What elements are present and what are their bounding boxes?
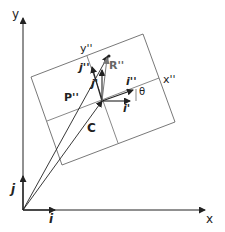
i-dd-vector (102, 90, 133, 101)
j-dd-label: j'' (79, 62, 90, 73)
j-prime-label: j' (91, 78, 98, 89)
diagram-graphics (0, 0, 225, 232)
C-label: C (87, 122, 96, 134)
i-label: i (49, 213, 53, 225)
point-P (108, 55, 111, 58)
C-vector (23, 101, 102, 210)
i-prime-label: i' (123, 103, 130, 114)
y-axis-label: y (12, 8, 19, 20)
x-axis-label: x (206, 213, 213, 225)
j-label: j (11, 183, 15, 195)
i-dd-label: i'' (126, 76, 137, 87)
R-dd-vector (102, 58, 107, 101)
theta-label: θ (139, 87, 145, 97)
R-dd-label: R'' (109, 60, 124, 71)
x-dd-label: x'' (163, 74, 176, 85)
coordinate-frame-diagram: y x y'' x'' R'' P'' C i'' j'' i' j' θ i … (0, 0, 225, 232)
P-dd-label: P'' (64, 92, 79, 103)
y-dd-label: y'' (80, 43, 93, 54)
